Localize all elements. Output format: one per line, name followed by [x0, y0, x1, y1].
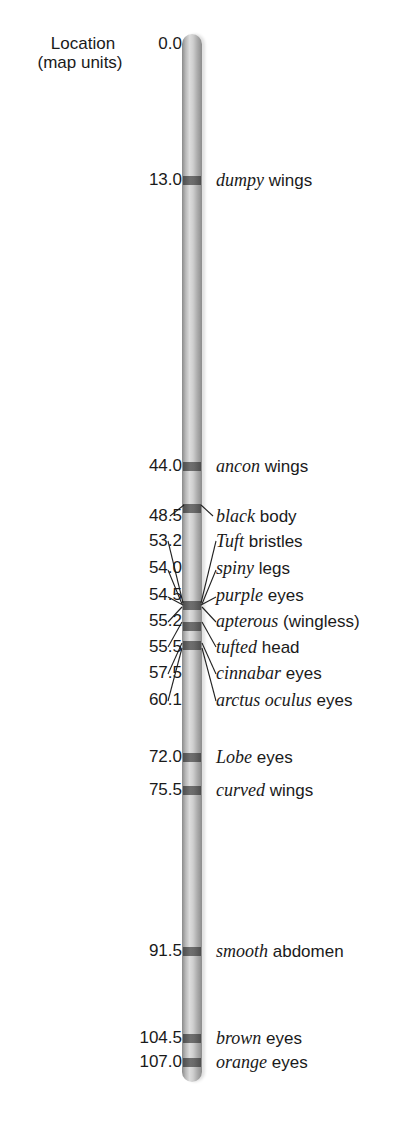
location-label: 107.0 — [139, 1052, 182, 1072]
trait: body — [260, 507, 297, 526]
band-ancon — [183, 462, 201, 471]
band-tufted — [183, 641, 201, 650]
gene-label: curved wings — [216, 780, 313, 801]
gene-label: dumpy wings — [216, 170, 312, 191]
gene-name: spiny — [216, 558, 254, 578]
location-label: 91.5 — [149, 941, 182, 961]
gene-name: curved — [216, 780, 265, 800]
gene-name: purple — [216, 585, 263, 605]
gene-label: apterous (wingless) — [216, 611, 360, 632]
band-curved — [183, 786, 201, 795]
band-apterous — [183, 622, 201, 631]
band-smooth — [183, 947, 201, 956]
trait: legs — [259, 559, 290, 578]
gene-name: dumpy — [216, 170, 264, 190]
gene-name: orange — [216, 1052, 267, 1072]
gene-label: orange eyes — [216, 1052, 308, 1073]
gene-name: apterous — [216, 611, 278, 631]
gene-name: smooth — [216, 941, 268, 961]
gene-label: cinnabar eyes — [216, 663, 322, 684]
location-label: 55.2 — [149, 611, 182, 631]
trait: wings — [265, 457, 308, 476]
location-label: 75.5 — [149, 780, 182, 800]
gene-label: Tuft bristles — [216, 531, 303, 552]
leader-lines — [0, 0, 410, 1125]
location-label: 54.0 — [149, 558, 182, 578]
axis-title: Location (map units) — [20, 34, 140, 72]
location-start: 0.0 — [158, 34, 182, 54]
location-label: 53.2 — [149, 531, 182, 551]
location-label: 48.5 — [149, 506, 182, 526]
gene-name: arctus oculus — [216, 690, 312, 710]
trait: wings — [270, 781, 313, 800]
gene-label: arctus oculus eyes — [216, 690, 352, 711]
gene-label: Lobe eyes — [216, 747, 293, 768]
gene-name: ancon — [216, 456, 260, 476]
gene-label: smooth abdomen — [216, 941, 344, 962]
axis-title-line1: Location — [20, 34, 140, 53]
band-purple-cluster — [183, 601, 201, 610]
location-label: 13.0 — [149, 170, 182, 190]
trait: wings — [269, 171, 312, 190]
trait: eyes — [286, 664, 322, 683]
location-label: 72.0 — [149, 747, 182, 767]
band-dumpy — [183, 176, 201, 185]
gene-name: black — [216, 506, 255, 526]
band-orange — [183, 1058, 201, 1067]
trait: bristles — [249, 532, 303, 551]
axis-title-line2: (map units) — [20, 53, 140, 72]
location-label: 55.5 — [149, 637, 182, 657]
chromosome — [182, 34, 202, 1082]
trait: (wingless) — [283, 612, 360, 631]
gene-name: Lobe — [216, 747, 252, 767]
location-label: 54.5 — [149, 585, 182, 605]
location-label: 57.5 — [149, 663, 182, 683]
trait: eyes — [257, 748, 293, 767]
location-label: 104.5 — [139, 1028, 182, 1048]
gene-name: cinnabar — [216, 663, 281, 683]
trait: eyes — [272, 1053, 308, 1072]
trait: eyes — [266, 1029, 302, 1048]
gene-label: brown eyes — [216, 1028, 302, 1049]
band-lobe — [183, 753, 201, 762]
trait: eyes — [317, 691, 353, 710]
location-label: 44.0 — [149, 456, 182, 476]
gene-label: spiny legs — [216, 558, 290, 579]
gene-label: ancon wings — [216, 456, 308, 477]
location-label: 60.1 — [149, 690, 182, 710]
gene-label: black body — [216, 506, 297, 527]
gene-label: tufted head — [216, 637, 300, 658]
gene-name: Tuft — [216, 531, 244, 551]
trait: eyes — [268, 586, 304, 605]
band-black — [183, 504, 201, 513]
trait: head — [262, 638, 300, 657]
gene-name: brown — [216, 1028, 261, 1048]
gene-label: purple eyes — [216, 585, 304, 606]
gene-name: tufted — [216, 637, 257, 657]
trait: abdomen — [273, 942, 344, 961]
band-brown — [183, 1034, 201, 1043]
